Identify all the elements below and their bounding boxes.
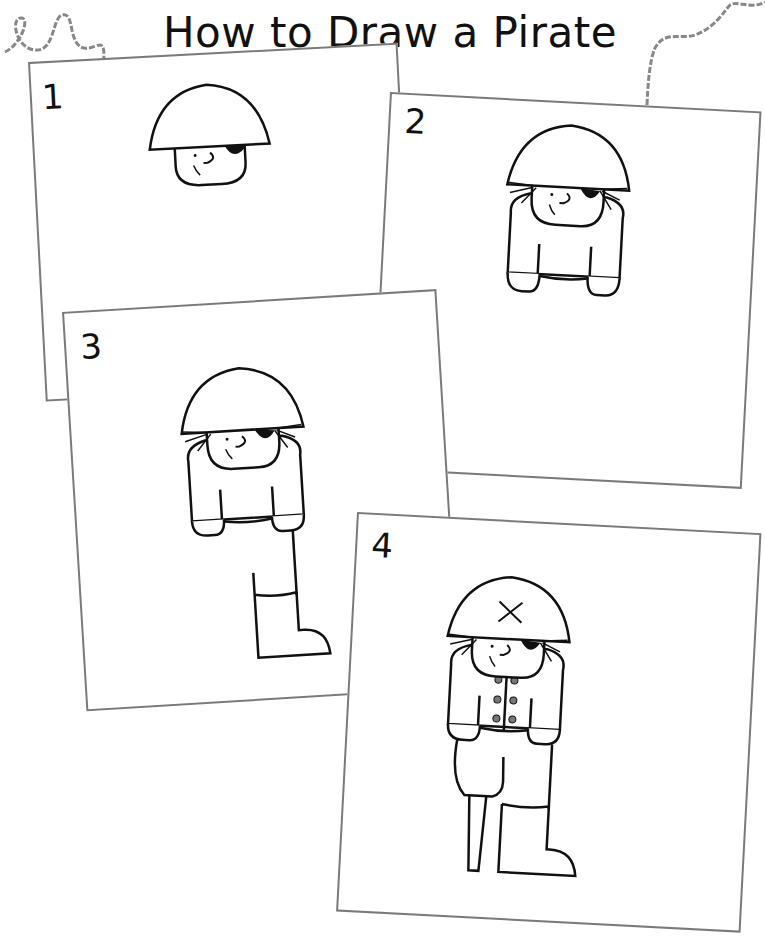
step-number: 1 — [41, 76, 65, 117]
pirate-step-1-drawing — [142, 81, 288, 208]
pirate-step-3-drawing — [171, 328, 341, 677]
pirate-step-2-drawing — [495, 122, 645, 329]
step-number: 4 — [370, 525, 394, 566]
pirate-step-4-drawing — [430, 539, 598, 886]
step-card-4: 4 — [336, 512, 761, 933]
step-number: 2 — [403, 101, 427, 142]
step-number: 3 — [79, 326, 103, 367]
